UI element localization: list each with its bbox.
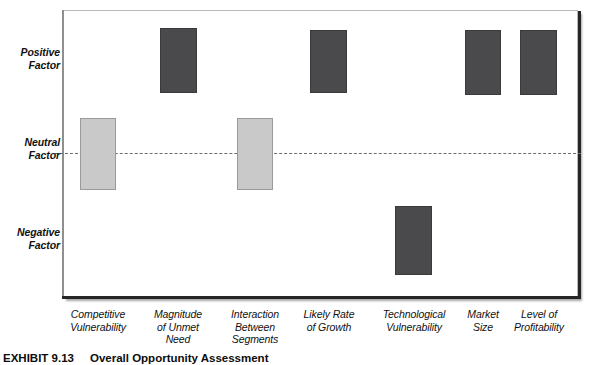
x-axis-label-likely-rate-of-growth: Likely Rate of Growth — [287, 308, 371, 333]
y-axis-label-positive-factor-line2: Factor — [2, 59, 60, 72]
figure-caption-title: Overall Opportunity Assessment — [90, 352, 269, 364]
bar-market-size — [465, 30, 501, 95]
x-axis-label-competitive-vulnerability-line2: Vulnerability — [56, 321, 140, 334]
y-axis-label-positive-factor-line1: Positive — [21, 46, 60, 58]
y-axis-label-neutral-factor-line2: Factor — [2, 149, 60, 162]
y-axis-label-negative-factor-line1: Negative — [17, 226, 60, 238]
bar-interaction-between-segments — [237, 118, 273, 190]
x-axis-label-interaction-between-segments-line1: Interaction — [213, 308, 297, 321]
x-axis-label-magnitude-of-unmet-need-line3: Need — [136, 333, 220, 346]
figure-caption-number: EXHIBIT 9.13 — [3, 352, 74, 364]
neutral-baseline — [55, 153, 581, 154]
bar-competitive-vulnerability — [80, 118, 116, 190]
x-axis-label-competitive-vulnerability-line1: Competitive — [56, 308, 140, 321]
x-axis-label-magnitude-of-unmet-need: Magnitude of Unmet Need — [136, 308, 220, 346]
x-axis-label-interaction-between-segments-line3: Segments — [213, 333, 297, 346]
x-axis-label-magnitude-of-unmet-need-line2: of Unmet — [136, 321, 220, 334]
y-axis-label-positive-factor: Positive Factor — [2, 46, 60, 71]
x-axis-label-technological-vulnerability-line1: Technological — [369, 308, 459, 321]
x-axis-label-competitive-vulnerability: Competitive Vulnerability — [56, 308, 140, 333]
bar-level-of-profitability — [520, 30, 557, 95]
y-axis-label-neutral-factor: Neutral Factor — [2, 136, 60, 161]
x-axis-label-level-of-profitability-line1: Level of — [496, 308, 582, 321]
plot-frame-left-edge — [62, 10, 64, 298]
plot-frame-right-edge — [578, 11, 581, 299]
figure-overall-opportunity-assessment: Positive Factor Neutral Factor Negative … — [0, 0, 589, 365]
x-axis-label-interaction-between-segments-line2: Between — [213, 321, 297, 334]
x-axis-label-level-of-profitability-line2: Profitability — [496, 321, 582, 334]
x-axis-label-likely-rate-of-growth-line1: Likely Rate — [287, 308, 371, 321]
x-axis-label-likely-rate-of-growth-line2: of Growth — [287, 321, 371, 334]
y-axis-label-negative-factor: Negative Factor — [2, 226, 60, 251]
plot-frame-bottom-edge — [62, 296, 581, 299]
x-axis-label-interaction-between-segments: Interaction Between Segments — [213, 308, 297, 346]
x-axis-label-technological-vulnerability-line2: Vulnerability — [369, 321, 459, 334]
y-axis-label-neutral-factor-line1: Neutral — [25, 136, 60, 148]
bar-likely-rate-of-growth — [310, 30, 347, 93]
x-axis-label-magnitude-of-unmet-need-line1: Magnitude — [136, 308, 220, 321]
figure-caption: EXHIBIT 9.13Overall Opportunity Assessme… — [3, 352, 268, 365]
x-axis-label-level-of-profitability: Level of Profitability — [496, 308, 582, 333]
bar-magnitude-of-unmet-need — [160, 28, 197, 93]
bar-technological-vulnerability — [395, 206, 432, 275]
x-axis-label-technological-vulnerability: Technological Vulnerability — [369, 308, 459, 333]
y-axis-label-negative-factor-line2: Factor — [2, 239, 60, 252]
